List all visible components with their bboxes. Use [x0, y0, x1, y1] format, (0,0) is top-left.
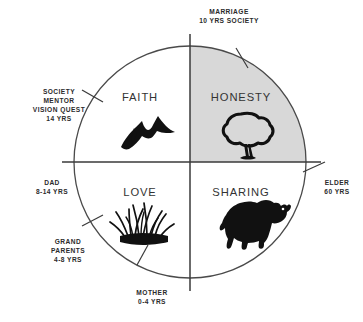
outer-label-society-line-2: VISION QUEST — [33, 106, 85, 114]
buffalo-icon — [220, 200, 291, 250]
outer-label-dad-line-0: DAD — [44, 179, 60, 186]
outer-label-marriage: MARRIAGE 10 YRS SOCIETY — [199, 8, 259, 24]
outer-label-elder-line-0: ELDER — [325, 179, 350, 186]
mountains-icon — [121, 116, 175, 149]
outer-label-society-line-3: 14 YRS — [46, 115, 71, 122]
outer-label-society-line-1: MENTOR — [43, 97, 74, 104]
quadrant-label-sharing: SHARING — [212, 186, 269, 198]
grass-icon — [110, 203, 174, 245]
tick-mother — [137, 245, 148, 265]
quadrant-label-love: LOVE — [123, 186, 156, 198]
medicine-wheel-figure: FAITH HONESTY LOVE SHARING MARRIAGE 10 Y… — [0, 0, 363, 322]
outer-label-elder: ELDER 60 YRS — [324, 179, 349, 195]
outer-label-grandparents-line-1: PARENTS — [51, 247, 85, 254]
quadrant-label-honesty: HONESTY — [211, 91, 271, 103]
outer-label-grandparents-line-0: GRAND — [55, 238, 81, 245]
outer-label-mother-line-1: 0-4 YRS — [138, 298, 166, 305]
quadrant-label-faith: FAITH — [122, 91, 158, 103]
outer-label-marriage-line-0: MARRIAGE — [209, 8, 249, 15]
outer-label-grandparents: GRAND PARENTS 4-8 YRS — [51, 238, 85, 263]
outer-label-dad: DAD 8-14 YRS — [36, 179, 68, 195]
outer-label-mother: MOTHER 0-4 YRS — [136, 289, 167, 305]
outer-label-marriage-line-1: 10 YRS SOCIETY — [199, 17, 259, 24]
outer-label-dad-line-1: 8-14 YRS — [36, 188, 68, 195]
outer-label-elder-line-1: 60 YRS — [324, 188, 349, 195]
outer-label-society-mentor: SOCIETY MENTOR VISION QUEST 14 YRS — [33, 88, 85, 122]
outer-label-society-line-0: SOCIETY — [43, 88, 75, 95]
outer-label-mother-line-0: MOTHER — [136, 289, 167, 296]
outer-label-grandparents-line-2: 4-8 YRS — [54, 256, 82, 263]
medicine-wheel-canvas: FAITH HONESTY LOVE SHARING MARRIAGE 10 Y… — [0, 0, 363, 322]
